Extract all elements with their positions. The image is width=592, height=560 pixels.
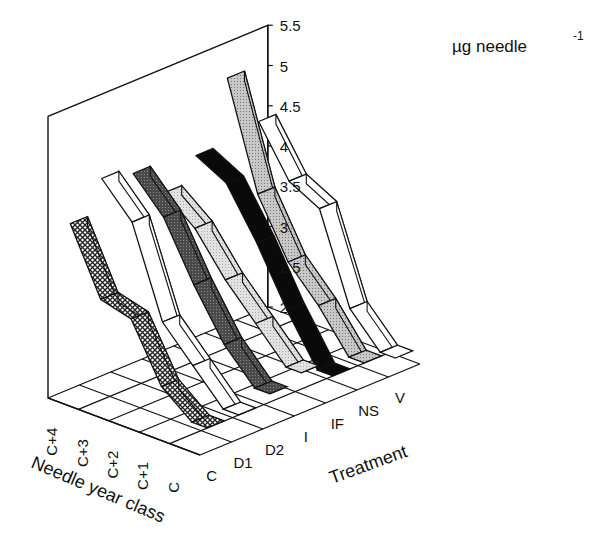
- ribbons: [70, 71, 412, 428]
- treatment-axis-title: Treatment: [327, 441, 410, 488]
- z-tick-label: 4.5: [280, 98, 301, 115]
- year-class-label: C+1: [134, 462, 151, 490]
- treatment-label-d1: D1: [234, 454, 253, 471]
- z-tick-label: 5: [280, 58, 288, 75]
- year-class-label: C: [165, 482, 182, 493]
- ribbon-chart: 5.554.543.532.52µg needle-1CD1D2IIFNSVCC…: [0, 0, 592, 560]
- treatment-label-v: V: [395, 389, 405, 406]
- treatment-label-i: I: [304, 428, 308, 445]
- year-class-label: C+4: [43, 428, 60, 456]
- z-tick-label: 2.5: [280, 259, 301, 276]
- z-tick-label: 5.5: [280, 17, 301, 34]
- z-tick-label: 3: [280, 219, 288, 236]
- z-axis-unit-label: µg needle: [452, 37, 527, 56]
- treatment-label-c: C: [206, 467, 217, 484]
- treatment-label-if: IF: [331, 415, 344, 432]
- treatment-label-d2: D2: [265, 441, 284, 458]
- z-tick-label: 4: [280, 138, 288, 155]
- year-class-label: C+3: [74, 439, 91, 467]
- year-class-label: C+2: [104, 451, 121, 479]
- treatment-label-ns: NS: [358, 402, 379, 419]
- z-axis-unit-superscript: -1: [573, 29, 584, 43]
- z-tick-label: 2: [280, 299, 288, 316]
- z-tick-label: 3.5: [280, 178, 301, 195]
